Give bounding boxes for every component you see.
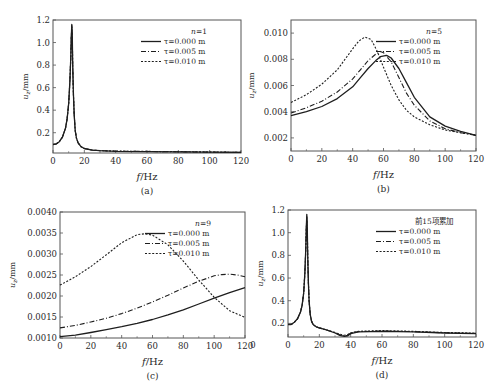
legend-title: n=5 [426,27,442,36]
series-line-dashdot [291,51,476,135]
series-line-solid [60,288,245,337]
y-tick-label: 0.0030 [27,249,57,259]
figure-canvas: 0204060801001200.20.40.60.81.01.2f/Hz(a)… [0,0,494,392]
legend-label: τ=0.000 m [399,227,440,236]
legend-label: τ=0.000 m [168,229,209,238]
chart-d: 02040608010012000.20.40.60.81.01.2f/Hz(d… [250,205,484,380]
y-tick-label: 1.0 [271,228,285,238]
legend-title: n=1 [191,27,207,36]
x-tick-label: 60 [147,341,158,351]
x-tick-label: 100 [202,156,218,166]
y-tick-label: 0.006 [264,81,288,91]
x-tick-label: 20 [79,156,90,166]
y-tick-label: 0.0035 [27,228,57,238]
x-tick-label: 120 [468,154,484,164]
y-axis-label: uz/mm [8,261,18,288]
legend-label: τ=0.010 m [399,57,440,66]
y-tick-label: 0.0020 [27,291,57,301]
x-tick-label: 40 [345,340,356,350]
x-axis-label: f/Hz [135,171,157,182]
y-tick-label: 1.2 [271,205,285,215]
series-line-dotted [53,27,241,153]
x-tick-label: 40 [110,156,121,166]
x-axis-label: f/Hz [141,356,163,367]
subplot-caption: (a) [141,186,153,196]
x-tick-label: 0 [250,340,255,350]
series-line-dotted [288,217,476,335]
legend-label: τ=0.005 m [164,47,205,56]
subplot-caption: (b) [377,184,390,194]
y-tick-label: 0.002 [264,133,288,143]
y-tick-label: 0.0025 [27,270,57,280]
x-tick-label: 0 [288,154,293,164]
legend-title: 前15项累加 [415,216,453,226]
series-line-dashdot [53,26,241,153]
x-tick-label: 120 [468,340,484,350]
x-tick-label: 80 [408,340,419,350]
x-tick-label: 40 [116,341,127,351]
legend-title: n=9 [195,219,211,228]
x-tick-label: 60 [378,154,389,164]
x-tick-label: 60 [142,156,153,166]
legend-label: τ=0.000 m [399,37,440,46]
x-tick-label: 80 [173,156,184,166]
y-tick-label: 0.010 [264,28,288,38]
y-tick-label: 1.0 [36,38,50,48]
subplot-caption: (d) [376,370,389,380]
x-tick-label: 20 [314,340,325,350]
legend-label: τ=0.005 m [168,239,209,248]
y-tick-label: 0.8 [271,250,285,260]
x-axis-label: f/Hz [370,355,392,366]
x-tick-label: 80 [178,341,189,351]
x-axis-label: f/Hz [372,169,394,180]
x-tick-label: 0 [50,156,55,166]
y-axis-label: uz/mm [21,73,31,100]
x-tick-label: 80 [409,154,420,164]
x-tick-label: 100 [437,340,453,350]
chart-a: 0204060801001200.20.40.60.81.01.2f/Hz(a)… [21,15,249,196]
series-line-dotted [60,234,245,318]
series-line-dashdot [288,216,476,336]
x-tick-label: 120 [233,156,249,166]
legend-label: τ=0.010 m [168,249,209,258]
y-tick-label: 0.008 [264,54,288,64]
x-tick-label: 0 [285,340,290,350]
x-tick-label: 20 [316,154,327,164]
legend-label: τ=0.005 m [399,237,440,246]
y-axis-label: uz/mm [247,72,257,99]
y-axis-label: uz/mm [256,260,266,287]
subplot-caption: (c) [146,371,158,381]
x-tick-label: 100 [437,154,453,164]
y-tick-label: 0.6 [36,83,50,93]
x-tick-label: 0 [57,341,62,351]
y-tick-label: 0.6 [271,273,285,283]
y-tick-label: 0.4 [36,105,50,115]
x-tick-label: 20 [85,341,96,351]
series-line-solid [53,25,241,153]
chart-b: 0204060801001200.0020.0040.0060.0080.010… [247,20,484,194]
plot-frame [288,210,476,337]
y-tick-label: 0.2 [36,128,50,138]
x-tick-label: 100 [206,341,222,351]
legend-label: τ=0.010 m [164,57,205,66]
y-tick-label: 0.8 [36,60,50,70]
series-line-solid [288,215,476,337]
x-tick-label: 40 [347,154,358,164]
legend-label: τ=0.010 m [399,247,440,256]
x-tick-label: 60 [377,340,388,350]
chart-c: 0204060801001200.00100.00150.00200.00250… [8,207,253,381]
legend-label: τ=0.005 m [399,47,440,56]
legend-label: τ=0.000 m [164,37,205,46]
y-tick-label: 0.0040 [27,207,57,217]
plot-frame [53,20,241,153]
y-tick-label: 0.2 [271,318,285,328]
y-tick-label: 0.004 [264,107,288,117]
y-tick-label: 0.0015 [27,312,57,322]
y-tick-label: 0.0010 [27,333,57,343]
y-tick-label: 0.4 [271,296,285,306]
plot-frame [291,20,476,151]
y-tick-label: 1.2 [36,15,50,25]
